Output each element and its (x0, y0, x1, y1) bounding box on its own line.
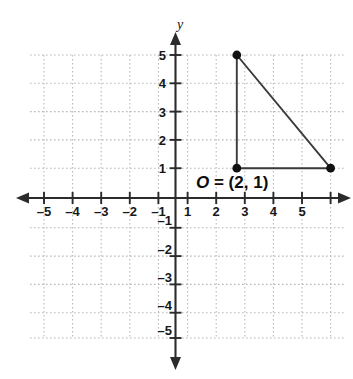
vertex-point-2-5 (232, 51, 241, 60)
vertex-point-5-1 (326, 164, 335, 173)
y-axis-top-arrow (170, 32, 181, 45)
x-tick-label: –4 (65, 204, 80, 219)
x-axis-right-arrow (338, 193, 351, 204)
point-annotation-coordinates: (2, 1) (229, 173, 269, 192)
y-axis-tick-labels: 5 4 3 2 1 –1 –2 –3 –4 –5 (158, 48, 173, 338)
x-tick-label: –3 (94, 204, 108, 219)
y-axis-bottom-arrow (170, 357, 181, 370)
x-tick-label: 2 (213, 204, 220, 219)
x-tick-label: 5 (298, 204, 305, 219)
y-tick-label: 4 (159, 76, 167, 91)
x-axis-left-arrow (16, 193, 29, 204)
y-tick-label: –4 (158, 298, 173, 313)
point-annotation-equals: = (209, 173, 228, 192)
y-axis-label: y (175, 17, 184, 32)
y-tick-label: –1 (158, 213, 172, 228)
vertex-point-2-1 (232, 164, 241, 173)
point-annotation-name: O (196, 173, 209, 192)
y-tick-label: 1 (159, 161, 166, 176)
x-tick-label: 4 (270, 204, 278, 219)
y-tick-label: –5 (158, 323, 172, 338)
point-annotation-label: O = (2, 1) (196, 173, 268, 192)
x-tick-label: –2 (123, 204, 137, 219)
y-tick-label: 3 (159, 105, 166, 120)
y-tick-label: –2 (158, 242, 172, 257)
x-tick-label: –5 (37, 204, 51, 219)
y-tick-label: 5 (159, 48, 166, 63)
y-tick-label: 2 (159, 133, 166, 148)
x-tick-label: 3 (241, 204, 248, 219)
y-tick-label: –3 (158, 270, 172, 285)
coordinate-plane-figure: –5 –4 –3 –2 –1 1 2 3 4 5 5 4 3 2 1 –1 –2… (0, 0, 353, 379)
x-axis (16, 193, 351, 204)
coordinate-plane-svg: –5 –4 –3 –2 –1 1 2 3 4 5 5 4 3 2 1 –1 –2… (0, 0, 353, 379)
x-tick-label: 1 (184, 204, 191, 219)
